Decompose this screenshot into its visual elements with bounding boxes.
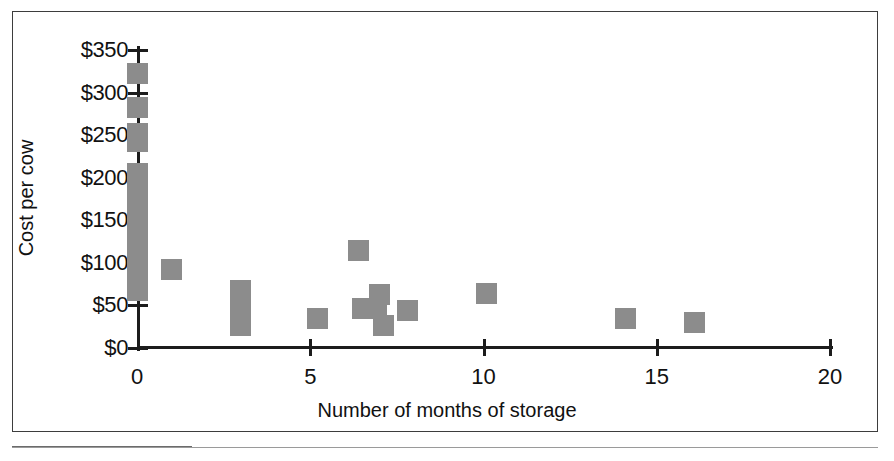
data-point-marker	[161, 259, 182, 280]
data-point-marker	[127, 259, 148, 280]
data-point-marker	[476, 283, 497, 304]
data-point-marker	[127, 63, 148, 84]
footer-rule-accent	[12, 446, 192, 447]
data-point-marker	[127, 131, 148, 152]
data-point-marker	[373, 315, 394, 336]
data-point-marker	[684, 312, 705, 333]
data-point-marker	[127, 171, 148, 192]
y-axis-title: Cost per cow	[15, 140, 38, 257]
x-axis-title: Number of months of storage	[0, 399, 894, 422]
data-point-marker	[127, 280, 148, 301]
data-point-marker	[615, 308, 636, 329]
data-point-marker	[348, 240, 369, 261]
data-point-marker	[307, 308, 328, 329]
footer-rule	[12, 447, 878, 448]
data-point-marker	[230, 315, 251, 336]
data-point-marker	[127, 97, 148, 118]
data-point-marker	[397, 300, 418, 321]
plot-area	[0, 0, 894, 461]
data-point-marker	[369, 284, 390, 305]
figure-container: $0$50$100$150$200$250$300$350 05101520 N…	[0, 0, 894, 461]
